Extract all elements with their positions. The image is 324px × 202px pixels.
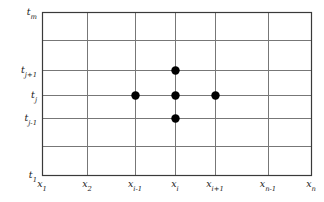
label-subscript: j [35,97,37,105]
label-subscript: n-1 [265,185,276,193]
label-subscript: j-1 [28,120,37,128]
x-tick-label-xnm1: xn-1 [260,179,276,189]
node-center [171,91,179,99]
node-left [131,91,139,99]
label-subscript: 1 [43,185,47,193]
label-subscript: i [177,185,179,193]
node-upper [171,66,179,74]
label-subscript: i-1 [133,185,142,193]
node-right [211,91,219,99]
x-tick-label-xim1: xi-1 [128,179,142,189]
label-subscript: n [311,185,315,193]
label-subscript: j+1 [25,72,37,80]
x-tick-label-xip1: xi+1 [206,179,224,189]
x-tick-label-xn: xn [306,179,316,189]
label-subscript: m [31,14,37,22]
x-tick-label-x2: x2 [82,179,92,189]
x-tick-label-xi: xi [171,179,179,189]
y-tick-label-tj: tj [31,90,37,100]
label-subscript: 2 [88,185,92,193]
y-tick-label-tjm1: tj-1 [24,113,37,123]
finite-difference-grid-figure: tmtj+1tjtj-1t1 x1x2xi-1xixi+1xn-1xn [0,0,324,202]
node-lower [171,114,179,122]
y-tick-label-tjp1: tj+1 [21,65,37,75]
y-tick-label-t1: t1 [29,170,37,180]
label-subscript: i+1 [212,185,224,193]
grid-canvas [0,0,324,202]
x-tick-label-x1: x1 [37,179,47,189]
y-tick-label-tm: tm [27,7,37,17]
